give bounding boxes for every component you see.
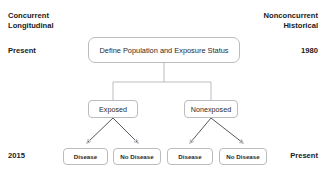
node-nonexposed-disease: Disease bbox=[167, 148, 213, 165]
right-axis-heading: Nonconcurrent Historical bbox=[264, 11, 318, 30]
node-exposed-no-disease: No Disease bbox=[113, 148, 161, 165]
arrow-exposed-to-disease bbox=[87, 118, 113, 143]
left-axis-middle-label: Present bbox=[8, 46, 36, 56]
node-define-population: Define Population and Exposure Status bbox=[88, 37, 240, 63]
node-exposed-disease: Disease bbox=[63, 148, 108, 165]
right-axis-heading-line1: Nonconcurrent bbox=[264, 11, 318, 21]
left-axis-heading: Concurrent Longitudinal bbox=[8, 11, 54, 30]
node-nonexposed-no-disease: No Disease bbox=[219, 148, 267, 165]
arrow-nonexposed-to-no-disease bbox=[211, 118, 243, 143]
diagram-canvas: Concurrent Longitudinal Present 2015 Non… bbox=[0, 0, 326, 175]
arrow-nonexposed-to-disease bbox=[190, 118, 211, 143]
left-axis-heading-line2: Longitudinal bbox=[8, 21, 54, 31]
right-axis-heading-line2: Historical bbox=[264, 21, 318, 31]
left-axis-heading-line1: Concurrent bbox=[8, 11, 54, 21]
node-exposed: Exposed bbox=[88, 100, 138, 118]
node-nonexposed: Nonexposed bbox=[184, 100, 238, 118]
arrow-exposed-to-no-disease bbox=[113, 118, 138, 143]
right-axis-bottom-label: Present bbox=[290, 151, 318, 161]
left-axis-bottom-label: 2015 bbox=[8, 151, 25, 161]
right-axis-middle-label: 1980 bbox=[301, 46, 318, 56]
